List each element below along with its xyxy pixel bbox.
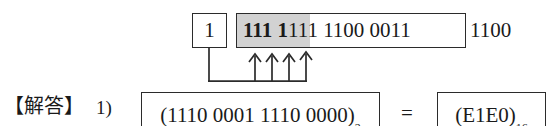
up-arrow-icon [283, 54, 295, 81]
hex-answer-value: (E1E0) [455, 103, 516, 126]
up-arrow-icon [266, 54, 278, 81]
bit-string-box: 111 1111 1100 0011 [236, 13, 466, 48]
single-bit-box: 1 [192, 13, 227, 48]
bit-string-content: 111 1111 1100 0011 [243, 20, 411, 41]
single-bit-value: 1 [204, 20, 215, 41]
hex-answer-subscript: 16 [516, 121, 528, 126]
up-arrow-icon [300, 52, 312, 81]
binary-answer-value: (1110 0001 1110 0000) [160, 103, 355, 126]
unshaded-bits-text: 111 1100 0011 [288, 18, 411, 42]
worksheet-figure: 1 111 1111 1100 0011 1100 [0, 0, 546, 126]
trailing-bits: 1100 [470, 13, 511, 48]
binary-answer-subscript: 2 [355, 121, 361, 126]
binary-answer-box: (1110 0001 1110 0000)2 [141, 92, 380, 126]
hex-answer-text: (E1E0)16 [455, 105, 528, 126]
equals-sign: = [401, 103, 413, 124]
answer-item-number: 1) [96, 98, 112, 117]
answer-label: 【解答】 [4, 96, 84, 116]
binary-answer-text: (1110 0001 1110 0000)2 [160, 105, 361, 126]
up-arrow-icon [249, 54, 261, 81]
shaded-bits-text: 111 1 [243, 18, 288, 42]
hex-answer-box: (E1E0)16 [437, 92, 546, 126]
